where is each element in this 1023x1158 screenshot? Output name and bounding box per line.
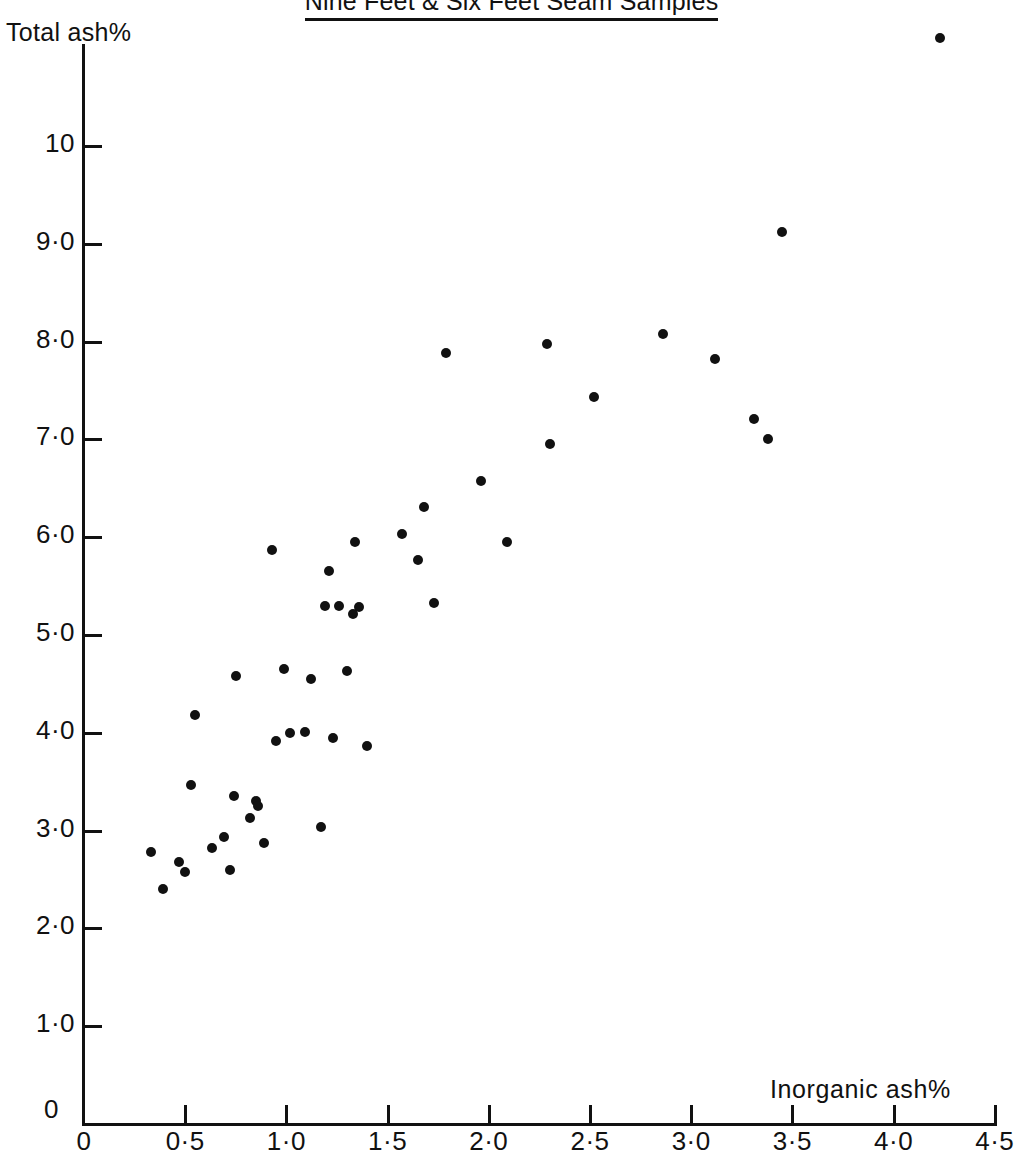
data-point [324, 566, 334, 576]
data-point [316, 822, 326, 832]
x-tick-label: 2·5 [550, 1126, 630, 1157]
data-point [146, 847, 156, 857]
data-point [342, 666, 352, 676]
data-point [225, 865, 235, 875]
data-point [334, 601, 344, 611]
x-tick-label: 0·5 [145, 1126, 225, 1157]
data-point [253, 801, 263, 811]
data-point [229, 791, 239, 801]
data-point [267, 545, 277, 555]
data-point [300, 727, 310, 737]
x-tick-label: 4·0 [854, 1126, 934, 1157]
scatter-chart-figure: Nine Feet & Six Feet Seam Samples Total … [0, 0, 1023, 1158]
data-point [285, 728, 295, 738]
data-point [350, 537, 360, 547]
x-tick-label: 0 [44, 1126, 124, 1157]
data-point [186, 780, 196, 790]
data-point [935, 33, 945, 43]
y-tick-label: 4·0 [5, 715, 75, 746]
data-point [271, 736, 281, 746]
x-tick-label: 3·0 [651, 1126, 731, 1157]
y-tick-label: 2·0 [5, 910, 75, 941]
data-point [397, 529, 407, 539]
data-point [429, 598, 439, 608]
y-tick-label: 9·0 [5, 226, 75, 257]
data-point [207, 843, 217, 853]
data-point [219, 832, 229, 842]
data-point [413, 555, 423, 565]
x-tick-label: 2·0 [449, 1126, 529, 1157]
data-point [502, 537, 512, 547]
plot-area [84, 44, 995, 1124]
x-tick-label: 4·5 [955, 1126, 1023, 1157]
data-point [476, 476, 486, 486]
data-point [174, 857, 184, 867]
y-tick-label: 7·0 [5, 421, 75, 452]
data-point [158, 884, 168, 894]
data-point [320, 601, 330, 611]
data-point [441, 348, 451, 358]
data-point [354, 602, 364, 612]
data-point [545, 439, 555, 449]
data-point [180, 867, 190, 877]
y-tick-label: 10 [5, 128, 75, 159]
data-point [710, 354, 720, 364]
chart-title: Nine Feet & Six Feet Seam Samples [0, 0, 1023, 16]
data-point [279, 664, 289, 674]
data-point [231, 671, 241, 681]
data-point [190, 710, 200, 720]
y-tick-label: 6·0 [5, 519, 75, 550]
y-tick-label: 8·0 [5, 324, 75, 355]
data-point [542, 339, 552, 349]
data-point [589, 392, 599, 402]
data-point [362, 741, 372, 751]
data-point [306, 674, 316, 684]
data-point [777, 227, 787, 237]
y-tick-label: 3·0 [5, 813, 75, 844]
x-tick-label: 3·5 [752, 1126, 832, 1157]
x-tick-label: 1·5 [348, 1126, 428, 1157]
y-axis-title: Total ash% [6, 18, 131, 47]
data-point [245, 813, 255, 823]
data-point [419, 502, 429, 512]
data-point [658, 329, 668, 339]
data-point [763, 434, 773, 444]
chart-title-text: Nine Feet & Six Feet Seam Samples [305, 0, 719, 21]
data-point [328, 733, 338, 743]
data-point [259, 838, 269, 848]
origin-label: 0 [44, 1094, 58, 1125]
data-point [749, 414, 759, 424]
x-tick-label: 1·0 [246, 1126, 326, 1157]
y-tick-label: 1·0 [5, 1008, 75, 1039]
y-tick-label: 5·0 [5, 617, 75, 648]
